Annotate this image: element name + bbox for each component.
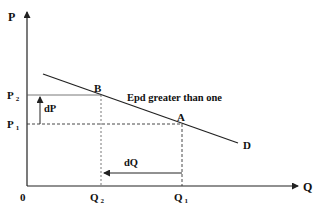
origin-label: 0 [20,191,26,203]
point-b-label: B [94,82,102,94]
q1-label: Q1 [174,191,189,205]
x-axis-label: Q [303,180,312,194]
point-a-label: A [177,111,185,123]
q2-label: Q2 [90,191,105,205]
p2-label: P2 [7,89,20,103]
p1-label: P1 [7,118,20,132]
demand-curve-label: D [243,139,251,151]
price-change-label: dP [44,103,57,114]
demand-curve [43,74,238,143]
elasticity-annotation: Epd greater than one [127,92,222,103]
elasticity-diagram: P Q 0 P2 P1 Q2 Q1 B A D Epd greater than… [0,0,319,211]
y-axis-label: P [8,10,15,24]
quantity-change-label: dQ [124,157,138,168]
